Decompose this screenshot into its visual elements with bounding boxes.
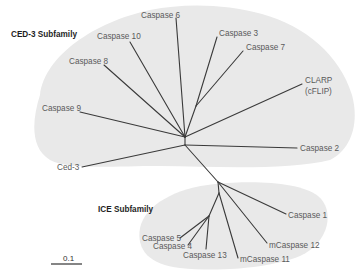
ced3-subfamily-label: CED-3 Subfamily — [11, 30, 77, 39]
leaf-caspase13: Caspase 13 — [183, 251, 227, 260]
leaf-caspase2: Caspase 2 — [300, 144, 340, 153]
leaf-caspase9: Caspase 9 — [42, 104, 82, 113]
scale-bar-label: 0.1 — [63, 254, 75, 263]
leaf-caspase4: Caspase 4 — [153, 242, 193, 251]
leaf-caspase6: Caspase 6 — [141, 11, 181, 20]
leaf-caspase10: Caspase 10 — [97, 32, 141, 41]
leaf-caspase7: Caspase 7 — [246, 43, 286, 52]
leaf-mcaspase11: mCaspase 11 — [240, 255, 290, 264]
leaf-clarp: CLARP — [305, 76, 333, 85]
ice-subfamily-label: ICE Subfamily — [98, 205, 153, 214]
leaf-caspase8: Caspase 8 — [69, 57, 109, 66]
ice-subfamily-region — [139, 182, 327, 269]
scale-bar: 0.1 — [51, 254, 82, 264]
leaf-ced3: Ced-3 — [57, 163, 80, 172]
phylogenetic-tree: CED-3 Subfamily ICE Subfamily Caspase 6 … — [0, 0, 358, 276]
leaf-caspase1: Caspase 1 — [288, 211, 328, 220]
leaf-mcaspase12: mCaspase 12 — [269, 241, 320, 250]
leaf-clarp-cflip: (cFLIP) — [305, 87, 332, 96]
leaf-caspase3: Caspase 3 — [219, 29, 259, 38]
